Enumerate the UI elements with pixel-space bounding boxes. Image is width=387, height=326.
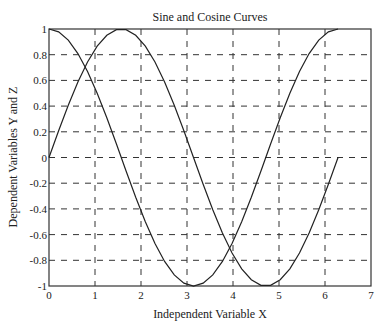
x-tick-label: 3: [184, 289, 190, 301]
y-tick-label: -0.6: [30, 229, 48, 241]
x-tick-label: 6: [322, 289, 328, 301]
x-axis-label: Independent Variable X: [153, 307, 267, 321]
x-tick-label: 5: [276, 289, 282, 301]
x-tick-label: 7: [368, 289, 374, 301]
y-tick-label: -0.4: [30, 203, 48, 215]
ticks: 01234567-1-0.8-0.6-0.4-0.200.20.40.60.81: [30, 23, 375, 301]
y-tick-label: 0.6: [33, 74, 47, 86]
y-tick-label: -0.2: [30, 177, 47, 189]
grid: [49, 29, 371, 286]
y-tick-label: 1: [42, 23, 48, 35]
x-tick-label: 4: [230, 289, 236, 301]
x-tick-label: 0: [46, 289, 52, 301]
x-tick-label: 1: [92, 289, 98, 301]
y-tick-label: 0.2: [33, 126, 47, 138]
chart-title: Sine and Cosine Curves: [153, 10, 268, 24]
y-tick-label: -0.8: [30, 254, 48, 266]
y-tick-label: -1: [38, 280, 47, 292]
y-tick-label: 0.4: [33, 100, 47, 112]
x-tick-label: 2: [138, 289, 144, 301]
sine-cosine-chart: 01234567-1-0.8-0.6-0.4-0.200.20.40.60.81…: [0, 0, 387, 326]
y-axis-label: Dependent Variables Y and Z: [6, 87, 20, 228]
y-tick-label: 0.8: [33, 49, 47, 61]
y-tick-label: 0: [42, 152, 48, 164]
